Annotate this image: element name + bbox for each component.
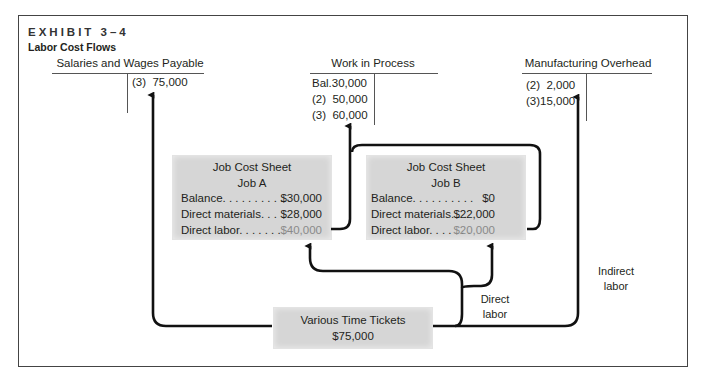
time-tickets-amount: $75,000 xyxy=(274,330,432,342)
time-tickets-title: Various Time Tickets xyxy=(274,314,432,326)
arrow-job-a-to-wip xyxy=(331,126,350,229)
arrow-job-b-to-wip xyxy=(352,145,540,229)
direct-labor-label: Direct labor xyxy=(470,292,520,322)
arrow-direct-labor-to-job-b xyxy=(462,246,492,288)
indirect-labor-label: Indirect labor xyxy=(588,264,644,294)
arrow-to-salaries-payable xyxy=(153,95,272,326)
time-tickets-box: Various Time Tickets $75,000 xyxy=(273,307,433,349)
